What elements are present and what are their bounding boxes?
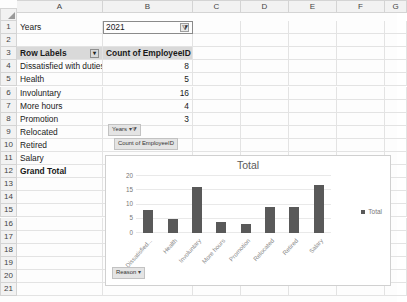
cell-A1[interactable]: Years bbox=[17, 21, 103, 34]
cell-B6[interactable]: 16 bbox=[103, 87, 193, 100]
cell-F2[interactable] bbox=[337, 34, 385, 47]
cell-F5[interactable] bbox=[337, 73, 385, 86]
filter-applied-icon[interactable]: ⧩ bbox=[180, 23, 189, 32]
cell-A5[interactable]: Health bbox=[17, 73, 103, 86]
row-header-11[interactable]: 11 bbox=[0, 152, 17, 165]
cell-C2[interactable] bbox=[193, 34, 241, 47]
cell-F4[interactable] bbox=[337, 60, 385, 73]
cell-D10[interactable] bbox=[241, 139, 289, 152]
pivot-field-button-count-employeeid[interactable]: Count of EmployeeID bbox=[114, 138, 178, 150]
column-header-d[interactable]: D bbox=[241, 0, 289, 13]
cell-G2[interactable] bbox=[385, 34, 407, 47]
cell-A21[interactable] bbox=[17, 283, 103, 296]
cell-A19[interactable] bbox=[17, 257, 103, 270]
cell-F10[interactable] bbox=[337, 139, 385, 152]
cell-A3[interactable]: Row Labels▾ bbox=[17, 47, 103, 60]
cell-G1[interactable] bbox=[385, 21, 407, 34]
column-header-b[interactable]: B bbox=[103, 0, 193, 13]
row-header-18[interactable]: 18 bbox=[0, 244, 17, 257]
row-header-1[interactable]: 1 bbox=[0, 21, 17, 34]
row-header-3[interactable]: 3 bbox=[0, 47, 17, 60]
cell-C4[interactable] bbox=[193, 60, 241, 73]
cell-G7[interactable] bbox=[385, 100, 407, 113]
cell-E8[interactable] bbox=[289, 113, 337, 126]
cell-D3[interactable] bbox=[241, 47, 289, 60]
cell-C3[interactable] bbox=[193, 47, 241, 60]
chart-bar[interactable] bbox=[265, 207, 275, 233]
chart-bar[interactable] bbox=[168, 219, 178, 233]
cell-G8[interactable] bbox=[385, 113, 407, 126]
row-header-21[interactable]: 21 bbox=[0, 283, 17, 296]
cell-E10[interactable] bbox=[289, 139, 337, 152]
row-header-14[interactable]: 14 bbox=[0, 191, 17, 204]
row-header-13[interactable]: 13 bbox=[0, 178, 17, 191]
row-header-17[interactable]: 17 bbox=[0, 231, 17, 244]
cell-B2[interactable] bbox=[103, 34, 193, 47]
row-header-2[interactable]: 2 bbox=[0, 34, 17, 47]
cell-E4[interactable] bbox=[289, 60, 337, 73]
cell-A6[interactable]: Involuntary bbox=[17, 87, 103, 100]
cell-F3[interactable] bbox=[337, 47, 385, 60]
row-header-5[interactable]: 5 bbox=[0, 73, 17, 86]
cell-E2[interactable] bbox=[289, 34, 337, 47]
row-header-7[interactable]: 7 bbox=[0, 100, 17, 113]
column-header-e[interactable]: E bbox=[289, 0, 337, 13]
cell-A14[interactable] bbox=[17, 191, 103, 204]
cell-D2[interactable] bbox=[241, 34, 289, 47]
cell-E9[interactable] bbox=[289, 126, 337, 139]
column-header-a[interactable]: A bbox=[17, 0, 103, 13]
cell-G5[interactable] bbox=[385, 73, 407, 86]
cell-A2[interactable] bbox=[17, 34, 103, 47]
chart-bar[interactable] bbox=[143, 210, 153, 233]
chart-bar[interactable] bbox=[216, 222, 226, 233]
cell-E5[interactable] bbox=[289, 73, 337, 86]
cell-B5[interactable]: 5 bbox=[103, 73, 193, 86]
column-header-c[interactable]: C bbox=[193, 0, 241, 13]
row-header-9[interactable]: 9 bbox=[0, 126, 17, 139]
cell-F9[interactable] bbox=[337, 126, 385, 139]
cell-B1[interactable]: 2021⧩ bbox=[103, 21, 193, 34]
pivot-field-button-years[interactable]: Years ▾⧩ bbox=[108, 124, 141, 136]
cell-C1[interactable] bbox=[193, 21, 241, 34]
cell-C9[interactable] bbox=[193, 126, 241, 139]
cell-F6[interactable] bbox=[337, 87, 385, 100]
column-header-g[interactable]: G bbox=[385, 0, 407, 13]
row-header-15[interactable]: 15 bbox=[0, 204, 17, 217]
cell-A15[interactable] bbox=[17, 204, 103, 217]
row-header-8[interactable]: 8 bbox=[0, 113, 17, 126]
cell-A11[interactable]: Salary bbox=[17, 152, 103, 165]
cell-C7[interactable] bbox=[193, 100, 241, 113]
cell-E7[interactable] bbox=[289, 100, 337, 113]
cell-A12[interactable]: Grand Total bbox=[17, 165, 103, 178]
cell-D5[interactable] bbox=[241, 73, 289, 86]
cell-C10[interactable] bbox=[193, 139, 241, 152]
cell-F7[interactable] bbox=[337, 100, 385, 113]
cell-D6[interactable] bbox=[241, 87, 289, 100]
row-header-20[interactable]: 20 bbox=[0, 270, 17, 283]
cell-A17[interactable] bbox=[17, 231, 103, 244]
cell-D8[interactable] bbox=[241, 113, 289, 126]
cell-E6[interactable] bbox=[289, 87, 337, 100]
cell-D9[interactable] bbox=[241, 126, 289, 139]
cell-A7[interactable]: More hours bbox=[17, 100, 103, 113]
cell-F8[interactable] bbox=[337, 113, 385, 126]
cell-A10[interactable]: Retired bbox=[17, 139, 103, 152]
pivot-chart[interactable]: Total 20151050 Dissatisfied...HealthInvo… bbox=[105, 155, 391, 286]
row-header-10[interactable]: 10 bbox=[0, 139, 17, 152]
cell-D7[interactable] bbox=[241, 100, 289, 113]
cell-C6[interactable] bbox=[193, 87, 241, 100]
cell-B4[interactable]: 8 bbox=[103, 60, 193, 73]
row-header-19[interactable]: 19 bbox=[0, 257, 17, 270]
cell-G4[interactable] bbox=[385, 60, 407, 73]
cell-A16[interactable] bbox=[17, 218, 103, 231]
cell-A18[interactable] bbox=[17, 244, 103, 257]
cell-B3[interactable]: Count of EmployeeID bbox=[103, 47, 193, 60]
chevron-down-icon[interactable]: ▾ bbox=[90, 49, 99, 58]
cell-A9[interactable]: Relocated bbox=[17, 126, 103, 139]
cell-C8[interactable] bbox=[193, 113, 241, 126]
cell-F1[interactable] bbox=[337, 21, 385, 34]
cell-G9[interactable] bbox=[385, 126, 407, 139]
cell-C5[interactable] bbox=[193, 73, 241, 86]
cell-B7[interactable]: 4 bbox=[103, 100, 193, 113]
row-header-12[interactable]: 12 bbox=[0, 165, 17, 178]
